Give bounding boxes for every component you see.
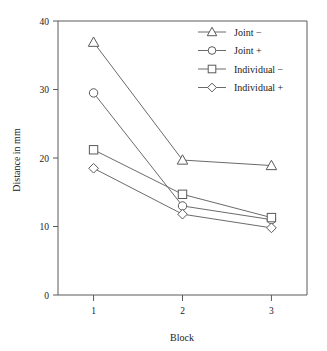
x-tick-label: 1: [91, 306, 96, 316]
diamond-marker: [89, 163, 99, 173]
series-1: [88, 37, 276, 170]
chart-legend: Joint −Joint +Individual −Individual +: [198, 27, 284, 94]
series-line: [94, 42, 272, 165]
square-marker: [267, 213, 275, 221]
triangle-marker: [207, 27, 217, 35]
y-tick-label: 0: [44, 291, 49, 301]
legend-item-1: Joint −: [198, 27, 262, 38]
triangle-marker: [177, 155, 188, 164]
square-marker: [208, 65, 216, 73]
x-tick-label: 2: [180, 306, 185, 316]
legend-label: Joint −: [234, 27, 262, 38]
chart-canvas: 010203040 123 Joint −Joint +Individual −…: [0, 0, 327, 351]
legend-item-2: Joint +: [198, 45, 262, 56]
y-axis-ticks: 010203040: [40, 17, 59, 301]
diamond-marker: [267, 223, 277, 233]
y-tick-label: 30: [40, 85, 50, 95]
x-axis-title: Block: [170, 332, 194, 343]
square-marker: [178, 190, 186, 198]
x-tick-label: 3: [269, 306, 274, 316]
circle-marker: [89, 89, 97, 97]
line-chart-figure: 010203040 123 Joint −Joint +Individual −…: [0, 0, 327, 351]
legend-item-4: Individual +: [198, 82, 284, 93]
triangle-marker: [88, 37, 99, 46]
legend-label: Joint +: [234, 45, 262, 56]
y-tick-label: 20: [40, 154, 50, 164]
circle-marker: [208, 47, 216, 55]
legend-label: Individual −: [234, 64, 284, 75]
y-tick-label: 40: [40, 17, 50, 27]
y-axis-title: Distance in mm: [11, 128, 22, 192]
legend-item-3: Individual −: [198, 64, 284, 75]
diamond-marker: [208, 83, 217, 92]
legend-label: Individual +: [234, 82, 284, 93]
y-tick-label: 10: [40, 222, 50, 232]
square-marker: [89, 146, 97, 154]
x-axis-ticks: 123: [91, 295, 274, 316]
diamond-marker: [178, 209, 188, 219]
